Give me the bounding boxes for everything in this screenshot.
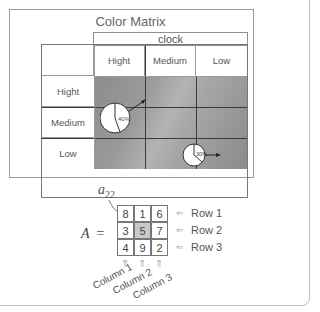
row-header-medium: Medium xyxy=(42,107,94,138)
row-header-low: Low xyxy=(42,138,94,169)
column-header-high: Hight xyxy=(94,45,145,76)
row-3-label: Row 3 xyxy=(191,241,222,253)
corner-cell xyxy=(42,45,94,76)
matrix-cell: 4 xyxy=(117,239,134,256)
grid-line-h0 xyxy=(94,76,247,77)
column-header-low: Low xyxy=(196,45,247,76)
row-2-arrow-icon: ⇐ xyxy=(176,225,184,235)
row-header-high: Hight xyxy=(42,76,94,107)
column-header-medium: Medium xyxy=(145,45,196,76)
color-matrix-table: Hight Medium Low Hight Medium Low 40% 30… xyxy=(41,44,248,198)
matrix-cell: 6 xyxy=(151,205,168,222)
matrix-cell: 1 xyxy=(134,205,151,222)
column-3-arrow-icon: ⇑ xyxy=(155,258,163,269)
row-1-arrow-icon: ⇐ xyxy=(176,208,184,218)
matrix-cell: 9 xyxy=(134,239,151,256)
equals-sign: = xyxy=(97,226,105,241)
matrix-name: A xyxy=(81,226,90,241)
svg-text:40%: 40% xyxy=(118,116,131,122)
pie-marker-40: 40% xyxy=(100,93,180,143)
matrix-cell: 2 xyxy=(151,239,168,256)
row-1-label: Row 1 xyxy=(191,207,222,219)
pointer-symbol: a xyxy=(98,182,105,197)
color-matrix-title: Color Matrix xyxy=(9,14,252,29)
row-2-label: Row 2 xyxy=(191,224,222,236)
matrix-cell: 8 xyxy=(117,205,134,222)
matrix-symbol: A = xyxy=(81,226,104,242)
matrix-cell: 7 xyxy=(151,222,168,239)
grid-line-v0 xyxy=(94,45,95,169)
row-3-arrow-icon: ⇐ xyxy=(176,242,184,252)
matrix-cell-highlighted: 5 xyxy=(134,222,151,239)
svg-text:30%: 30% xyxy=(196,151,207,157)
matrix-cell: 3 xyxy=(117,222,134,239)
pie-marker-30: 30% xyxy=(182,141,252,171)
